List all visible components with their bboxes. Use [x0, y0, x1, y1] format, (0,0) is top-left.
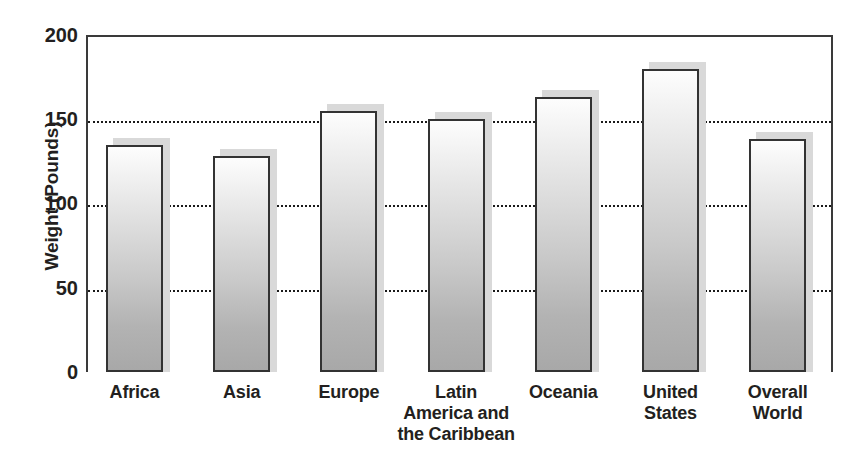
- x-axis-label-line: America and: [371, 403, 541, 424]
- x-axis-label-line: World: [693, 403, 857, 424]
- x-axis-label-line: the Caribbean: [371, 424, 541, 445]
- bar-chart: Weight (Pounds) 200 150 100 50 0 AfricaA…: [0, 0, 857, 469]
- x-axis-label: OverallWorld: [693, 382, 857, 424]
- x-axis-label-line: Overall: [693, 382, 857, 403]
- x-axis-labels: AfricaAsiaEuropeLatinAmerica andthe Cari…: [0, 0, 857, 469]
